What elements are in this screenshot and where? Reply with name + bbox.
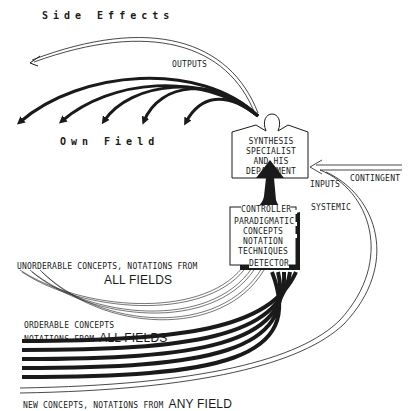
- synthesis-line: SPECIALIST: [236, 147, 306, 157]
- orderable-label: ORDERABLE CONCEPTS: [24, 321, 114, 330]
- any-field-text: ANY FIELD: [168, 397, 232, 411]
- paradigmatic-line: TECHNIQUES: [234, 247, 292, 257]
- new-concepts-label: NEW CONCEPTS, NOTATIONS FROM ANY FIELD: [23, 397, 232, 411]
- output-arrows: [20, 78, 258, 122]
- detector-label: DETECTOR: [249, 259, 289, 268]
- diagram-graphics: [0, 0, 416, 411]
- orderable-fields-label: NOTATIONS FROM ALL FIELDS: [24, 331, 168, 345]
- synthesis-diagram: Side Effects OUTPUTS Own Field SYNTHESIS…: [0, 0, 416, 411]
- new-concepts-text: NEW CONCEPTS, NOTATIONS FROM: [23, 401, 168, 410]
- synthesis-line: AND HIS: [236, 157, 306, 167]
- synthesis-box-text: SYNTHESIS SPECIALIST AND HIS DEPARTMENT: [236, 137, 306, 177]
- synthesis-line: SYNTHESIS: [236, 137, 306, 147]
- systemic-label: SYSTEMIC: [311, 203, 351, 212]
- paradigmatic-box-text: PARADIGMATIC CONCEPTS NOTATION TECHNIQUE…: [234, 217, 292, 257]
- own-field-label: Own Field: [60, 136, 159, 147]
- side-effects-arrow: [30, 38, 258, 114]
- paradigmatic-line: CONCEPTS: [234, 227, 292, 237]
- controller-label: CONTROLLER: [241, 205, 291, 214]
- unorderable-label: UNORDERABLE CONCEPTS, NOTATIONS FROM: [17, 262, 198, 271]
- inputs-label: INPUTS: [310, 180, 340, 189]
- orderable-notations-text: NOTATIONS FROM: [24, 335, 99, 344]
- contingent-label: CONTINGENT: [350, 174, 400, 183]
- side-effects-label: Side Effects: [42, 10, 174, 21]
- outputs-label: OUTPUTS: [172, 60, 207, 69]
- paradigmatic-line: NOTATION: [234, 237, 292, 247]
- paradigmatic-line: PARADIGMATIC: [234, 217, 292, 227]
- unorderable-fields-label: ALL FIELDS: [104, 273, 172, 287]
- orderable-all-fields-text: ALL FIELDS: [99, 331, 167, 345]
- synthesis-line: DEPARTMENT: [236, 167, 306, 177]
